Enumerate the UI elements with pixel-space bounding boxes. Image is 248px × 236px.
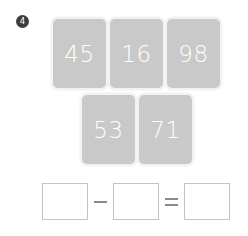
minus-operator-icon xyxy=(88,183,113,220)
number-card[interactable]: 16 xyxy=(110,19,163,88)
minus-bar xyxy=(94,201,107,203)
equals-operator-icon xyxy=(159,183,184,220)
equals-bar-bottom xyxy=(165,204,178,206)
number-card[interactable]: 98 xyxy=(167,19,220,88)
equation-row xyxy=(42,183,230,220)
answer-box-minuend[interactable] xyxy=(42,183,88,220)
number-card[interactable]: 53 xyxy=(82,95,135,164)
number-card-row-top: 45 16 98 xyxy=(53,19,220,88)
question-number-badge: 4 xyxy=(16,15,29,28)
number-card-row-bottom: 53 71 xyxy=(82,95,192,164)
number-card[interactable]: 45 xyxy=(53,19,106,88)
equals-bar-top xyxy=(165,198,178,200)
worksheet-question: 4 45 16 98 53 71 xyxy=(0,0,248,236)
number-card[interactable]: 71 xyxy=(139,95,192,164)
answer-box-subtrahend[interactable] xyxy=(113,183,159,220)
answer-box-difference[interactable] xyxy=(184,183,230,220)
